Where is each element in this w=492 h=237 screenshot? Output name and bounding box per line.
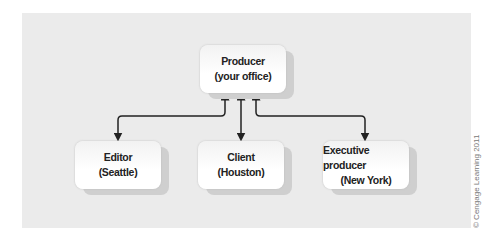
node-executive-subtitle: (New York) xyxy=(341,173,392,188)
node-client-title: Client xyxy=(227,150,254,165)
node-editor-title: Editor xyxy=(104,150,133,165)
node-client: Client (Houston) xyxy=(198,141,284,189)
connector-arrows xyxy=(0,0,492,237)
node-editor-subtitle: (Seattle) xyxy=(99,165,138,180)
node-editor: Editor (Seattle) xyxy=(75,141,161,189)
node-producer-title: Producer xyxy=(221,54,265,69)
node-executive-title: Executive producer xyxy=(323,143,409,173)
node-producer: Producer (your office) xyxy=(200,45,286,93)
node-executive-producer: Executive producer (New York) xyxy=(323,141,409,189)
node-producer-subtitle: (your office) xyxy=(215,69,272,84)
copyright-credit: © Cengage Learning 2011 xyxy=(472,118,481,228)
node-client-subtitle: (Houston) xyxy=(218,165,265,180)
